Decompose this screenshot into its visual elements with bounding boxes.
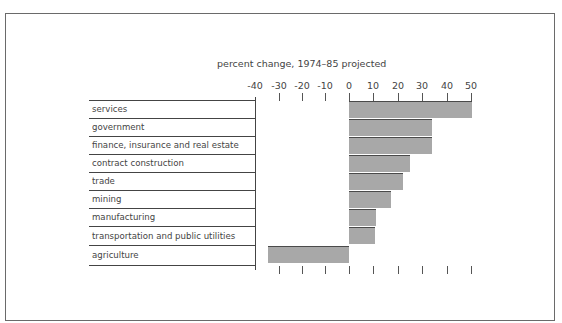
tick-mark: [279, 93, 280, 101]
tick-label-10: 10: [367, 80, 379, 91]
left-axis-line: [255, 97, 256, 270]
bar-agriculture: [268, 246, 349, 263]
tick-label-neg20: -20: [294, 80, 310, 91]
row-divider: [89, 208, 255, 209]
tick-label-neg40: -40: [247, 80, 263, 91]
tick-label-50: 50: [465, 80, 477, 91]
row-divider: [89, 118, 255, 119]
category-label: contract construction: [92, 158, 184, 168]
row-divider: [89, 136, 255, 137]
tick-label-neg30: -30: [271, 80, 287, 91]
row-divider: [89, 154, 255, 155]
bar-contract: [349, 155, 410, 172]
category-label: services: [92, 104, 127, 114]
tick-mark: [349, 93, 350, 101]
category-label: agriculture: [92, 250, 139, 260]
tick-label-40: 40: [441, 80, 453, 91]
row-divider: [89, 245, 255, 246]
tick-label-20: 20: [392, 80, 404, 91]
tick-label-neg10: -10: [317, 80, 333, 91]
tick-label-30: 30: [416, 80, 428, 91]
category-label: mining: [92, 194, 122, 204]
tick-mark: [471, 93, 472, 101]
tick-mark: [349, 266, 350, 274]
tick-mark: [302, 266, 303, 274]
tick-mark: [422, 93, 423, 101]
row-divider: [89, 226, 255, 227]
tick-mark: [302, 93, 303, 101]
category-label: trade: [92, 176, 115, 186]
tick-mark: [373, 266, 374, 274]
chart-title: percent change, 1974–85 projected: [217, 58, 386, 69]
row-divider: [89, 265, 255, 266]
tick-mark: [325, 93, 326, 101]
tick-mark: [279, 266, 280, 274]
bar-mining: [349, 191, 391, 208]
tick-mark: [447, 93, 448, 101]
tick-mark: [447, 266, 448, 274]
tick-mark: [471, 266, 472, 274]
row-divider: [89, 190, 255, 191]
tick-mark: [422, 266, 423, 274]
row-divider: [89, 172, 255, 173]
category-label: finance, insurance and real estate: [92, 140, 239, 150]
bar-finance: [349, 137, 432, 154]
tick-mark: [398, 266, 399, 274]
tick-mark: [325, 266, 326, 274]
bar-trade: [349, 173, 403, 190]
bar-transportation: [349, 227, 375, 244]
bar-government: [349, 119, 432, 136]
bar-services: [349, 101, 472, 118]
tick-mark: [373, 93, 374, 101]
row-divider: [89, 100, 255, 101]
category-label: transportation and public utilities: [92, 231, 235, 241]
tick-label-0: 0: [346, 80, 352, 91]
category-label: government: [92, 122, 144, 132]
bar-manufacturing: [349, 209, 376, 226]
tick-mark: [398, 93, 399, 101]
category-label: manufacturing: [92, 212, 155, 222]
